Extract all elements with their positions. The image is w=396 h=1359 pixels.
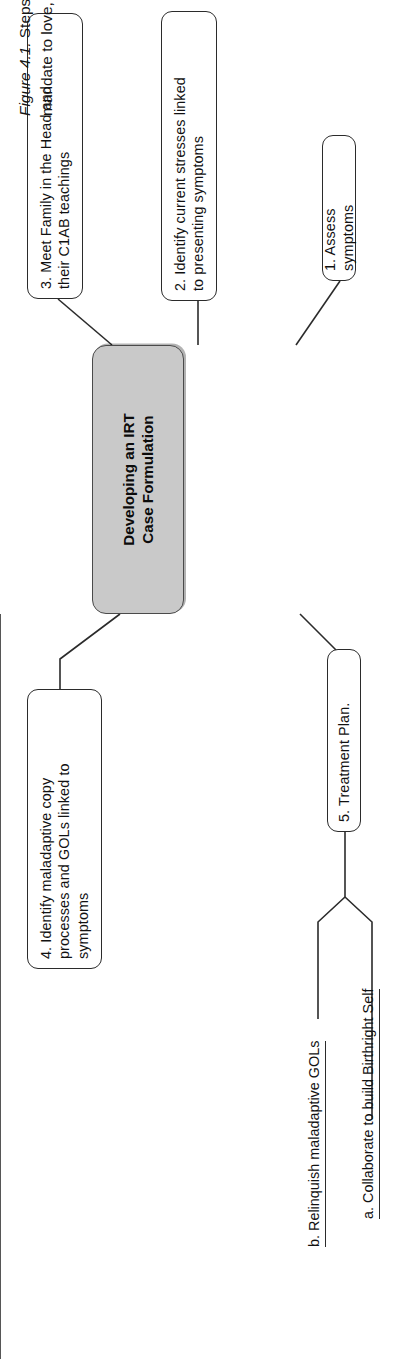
subitem-step-5-a[interactable]: a. Collaborate to build Birthright Self xyxy=(360,989,380,1219)
node-step-3-label: 3. Meet Family in the Head and their C1A… xyxy=(37,86,74,289)
node-step-4[interactable]: 4. Identify maladaptive copy processes a… xyxy=(27,689,102,969)
caption-line-1: Figure 4.1. Steps in developing an IRT c… xyxy=(14,0,36,116)
node-step-5-label: 5. Treatment Plan. xyxy=(335,703,353,822)
rotated-content-wrapper: Developing an IRT Case Formulation 1. As… xyxy=(0,0,396,1359)
caption-figure-number: Figure 4.1. xyxy=(16,42,33,116)
connector-hub-to-step-3 xyxy=(58,299,112,345)
hub-node-label: Developing an IRT Case Formulation xyxy=(119,413,157,545)
hub-node-case-formulation[interactable]: Developing an IRT Case Formulation xyxy=(92,345,184,614)
node-step-4-label: 4. Identify maladaptive copy processes a… xyxy=(37,763,92,959)
caption-line-2-text: mandate to love, honor, and obey C1Gs. G… xyxy=(36,0,58,116)
figure-stage: Developing an IRT Case Formulation 1. As… xyxy=(0,0,396,1359)
node-step-5[interactable]: 5. Treatment Plan. xyxy=(327,649,361,832)
connector-fork-to-subitem-b xyxy=(318,897,345,1019)
connector-hub-to-step-1 xyxy=(296,281,340,345)
figure-page: Developing an IRT Case Formulation 1. As… xyxy=(0,0,396,1359)
node-step-2[interactable]: 2. Identify current stresses linked to p… xyxy=(161,11,217,301)
figure-caption: Figure 4.1. Steps in developing an IRT c… xyxy=(14,0,58,116)
subitem-step-5-b[interactable]: b. Relinquish maladaptive GOLs xyxy=(306,1041,326,1247)
node-step-1[interactable]: 1. Assess symptoms xyxy=(322,135,356,281)
node-step-2-label: 2. Identify current stresses linked to p… xyxy=(171,77,208,291)
irt-case-formulation-diagram: Developing an IRT Case Formulation 1. As… xyxy=(0,129,396,1359)
connector-hub-to-step-4 xyxy=(60,614,120,689)
node-step-1-label: 1. Assess symptoms xyxy=(321,145,358,271)
caption-line-1-text: Steps in developing an IRT case formulat… xyxy=(16,0,33,42)
